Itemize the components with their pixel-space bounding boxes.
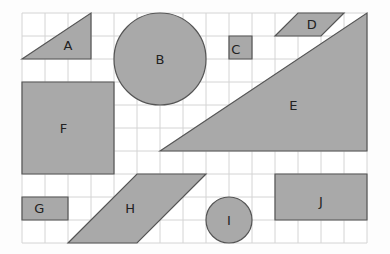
shapes-grid-diagram: ABCDEFGHIJ: [0, 0, 390, 254]
shape-g: G: [22, 197, 68, 220]
shape-label: D: [307, 17, 317, 32]
shape-b: B: [114, 13, 206, 105]
shape-i: I: [206, 197, 252, 243]
shape-j: J: [275, 174, 367, 220]
shape-label: F: [60, 121, 67, 136]
shape-label: H: [125, 201, 135, 216]
shape-label: E: [289, 98, 297, 113]
shape-label: G: [34, 201, 44, 216]
shape-label: I: [227, 213, 231, 228]
shape-f: F: [22, 82, 114, 174]
shape-label: J: [318, 194, 323, 209]
shape-label: B: [156, 52, 165, 67]
shape-label: C: [231, 42, 240, 57]
shape-label: A: [64, 38, 73, 53]
shape-c: C: [229, 36, 252, 59]
